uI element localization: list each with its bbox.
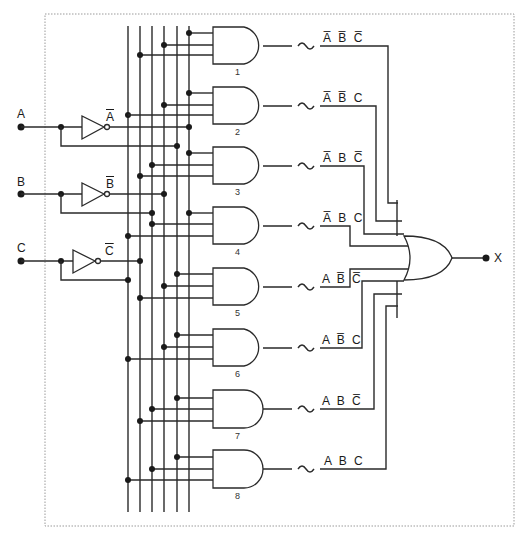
and-gate-2 <box>128 87 259 124</box>
gate-number: 7 <box>235 431 240 441</box>
inverter-c-icon <box>73 250 95 273</box>
minterm-label: A̅ B̅ C̅ <box>323 31 364 45</box>
inverter-a-icon <box>82 116 104 139</box>
inverter-b-icon <box>82 183 104 206</box>
minterm-label: A̅ B C̅ <box>323 151 364 165</box>
gate-number: 5 <box>235 308 240 318</box>
input-bus <box>128 26 189 512</box>
gate-number: 8 <box>235 491 240 501</box>
input-b-inverted-label: B <box>106 177 114 191</box>
and-gate-1 <box>137 27 259 64</box>
minterm-label: A B C̅ <box>322 394 363 408</box>
and-gate-7 <box>137 390 263 428</box>
minterm-label: A B̅ C̅ <box>322 272 363 286</box>
input-a-label: A <box>17 107 25 121</box>
gate-number: 2 <box>235 127 240 137</box>
output-x-terminal <box>483 255 490 262</box>
input-a-inverted-label: A <box>106 110 114 124</box>
gate-number: 6 <box>235 369 240 379</box>
and-gate-6 <box>125 329 259 366</box>
and-gate-8 <box>125 450 263 488</box>
and-gate-5 <box>137 268 259 305</box>
minterm-label: A̅ B̅ C <box>323 91 364 105</box>
output-x-label: X <box>494 251 502 265</box>
input-b-stage <box>18 183 168 216</box>
gate-number: 4 <box>235 247 240 257</box>
gate-number: 1 <box>235 67 240 77</box>
minterm-label: A̅ B C <box>323 211 364 225</box>
gate-number: 3 <box>235 187 240 197</box>
input-b-label: B <box>17 175 25 189</box>
input-a-stage <box>18 112 193 149</box>
input-c-label: C <box>17 241 26 255</box>
minterm-label: A B C <box>324 454 365 468</box>
and-gate-3 <box>137 147 259 184</box>
input-c-stage <box>18 250 144 283</box>
or-gate-icon <box>404 236 452 280</box>
minterm-label: A B̅ C <box>322 333 363 347</box>
input-c-inverted-label: C <box>105 244 114 258</box>
logic-circuit-diagram <box>0 0 522 538</box>
